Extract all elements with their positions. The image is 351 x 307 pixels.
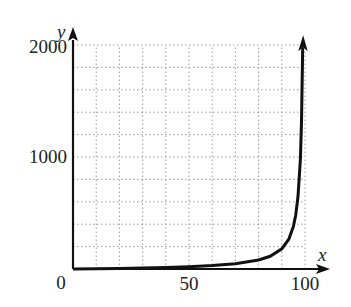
x-tick-100: 100 <box>291 273 320 294</box>
y-axis-arrow-icon <box>68 27 78 41</box>
y-tick-1000: 1000 <box>29 146 67 167</box>
x-tick-50: 50 <box>180 273 199 294</box>
y-tick-0: 0 <box>56 272 66 293</box>
y-tick-2000: 2000 <box>29 36 67 57</box>
data-curve <box>73 47 303 269</box>
chart: y x 2000 1000 0 50 100 <box>0 0 351 307</box>
x-axis-label: x <box>317 244 327 265</box>
grid <box>73 45 305 269</box>
